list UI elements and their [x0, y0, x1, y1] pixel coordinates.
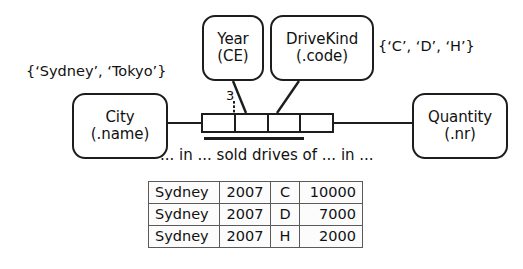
role-box-2[interactable]	[236, 115, 269, 131]
predicate-reading: ... in ... sold drives of ... in ...	[160, 146, 374, 164]
role-box-4[interactable]	[301, 115, 332, 131]
cell-city: Sydney	[149, 226, 220, 248]
cell-drivekind: C	[271, 182, 300, 204]
value-constraint-drivekind: {‘C’, ‘D’, ‘H’}	[378, 38, 475, 54]
connector-role4-to-quantity	[332, 122, 414, 124]
object-type-year[interactable]: Year (CE)	[202, 15, 264, 81]
orm-diagram-canvas: {‘Sydney’, ‘Tokyo’} {‘C’, ‘D’, ‘H’} City…	[0, 0, 523, 269]
object-type-quantity[interactable]: Quantity (.nr)	[412, 93, 508, 159]
table-row: Sydney 2007 D 7000	[149, 204, 363, 226]
object-type-city-name: City	[106, 109, 135, 126]
value-constraint-city: {‘Sydney’, ‘Tokyo’}	[26, 63, 166, 79]
cell-drivekind: H	[271, 226, 300, 248]
connector-city-to-role1	[167, 122, 203, 124]
cell-city: Sydney	[149, 182, 220, 204]
cell-year: 2007	[220, 204, 271, 226]
role-box-1[interactable]	[203, 115, 236, 131]
frequency-constraint-label: 3	[226, 88, 234, 103]
cell-quantity: 7000	[300, 204, 363, 226]
cell-year: 2007	[220, 182, 271, 204]
fact-population-table: Sydney 2007 C 10000 Sydney 2007 D 7000 S…	[148, 181, 363, 248]
connector-drivekind-to-role3	[277, 81, 299, 113]
table-row: Sydney 2007 H 2000	[149, 226, 363, 248]
object-type-city[interactable]: City (.name)	[72, 93, 168, 159]
fact-table-body: Sydney 2007 C 10000 Sydney 2007 D 7000 S…	[149, 182, 363, 248]
object-type-drivekind[interactable]: DriveKind (.code)	[270, 15, 374, 81]
cell-drivekind: D	[271, 204, 300, 226]
object-type-drivekind-reference: (.code)	[296, 48, 348, 65]
uniqueness-constraint-bar	[204, 137, 304, 140]
role-box-3[interactable]	[269, 115, 302, 131]
cell-quantity: 2000	[300, 226, 363, 248]
table-row: Sydney 2007 C 10000	[149, 182, 363, 204]
object-type-quantity-name: Quantity	[428, 109, 492, 126]
object-type-year-reference: (CE)	[217, 48, 248, 65]
cell-quantity: 10000	[300, 182, 363, 204]
cell-city: Sydney	[149, 204, 220, 226]
fact-type-role-band[interactable]	[201, 113, 334, 133]
object-type-city-reference: (.name)	[91, 126, 149, 143]
cell-year: 2007	[220, 226, 271, 248]
object-type-drivekind-name: DriveKind	[286, 31, 358, 48]
object-type-year-name: Year	[217, 31, 248, 48]
object-type-quantity-reference: (.nr)	[444, 126, 476, 143]
